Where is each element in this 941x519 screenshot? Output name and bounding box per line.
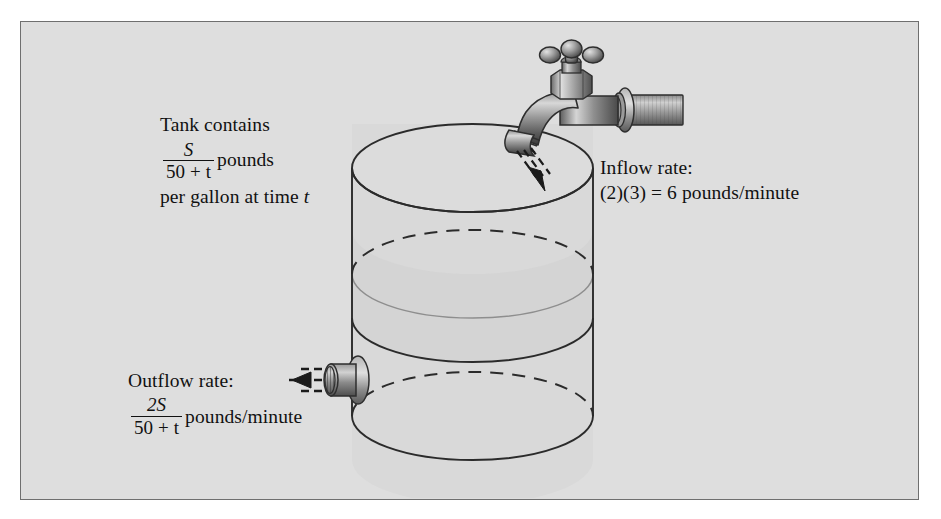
tank-contains-line1: Tank contains [160, 113, 375, 138]
tank-contains-label: Tank contains S 50 + t pounds per gallon… [160, 113, 375, 210]
tank-contains-line3: per gallon at time t [160, 185, 375, 210]
tank-contains-unit: pounds [217, 148, 274, 173]
tank-contains-line3-text: per gallon at time [160, 186, 299, 207]
outflow-rate-value: 2S 50 + t pounds/minute [128, 394, 383, 438]
outflow-units: pounds/minute [185, 404, 302, 429]
faucet-cross-handle [540, 40, 604, 63]
faucet-bonnet-nut [551, 70, 592, 99]
inflow-rate-label: Inflow rate: (2)(3) = 6 pounds/minute [600, 155, 890, 206]
cylindrical-tank [352, 124, 593, 504]
tank-contains-time-variable: t [304, 186, 310, 207]
handle-lobe-left [540, 47, 561, 63]
handle-lobe-right [583, 47, 604, 63]
outflow-fraction-numerator: 2S [131, 394, 182, 415]
tank-contains-rate: S 50 + t pounds [160, 139, 375, 183]
handle-lobe-center [561, 40, 582, 58]
inflow-rate-title: Inflow rate: [600, 155, 890, 180]
outflow-rate-label: Outflow rate: 2S 50 + t pounds/minute [128, 368, 383, 438]
outflow-fraction: 2S 50 + t [131, 394, 182, 438]
faucet-stem [562, 62, 581, 73]
outflow-rate-title: Outflow rate: [128, 368, 383, 393]
tank-concentration-fraction: S 50 + t [163, 139, 214, 183]
fraction-denominator: 50 + t [163, 160, 214, 183]
outflow-fraction-denominator: 50 + t [131, 416, 182, 439]
faucet-pipe-threads [631, 96, 682, 124]
diagram-canvas [0, 0, 941, 519]
fraction-numerator: S [163, 139, 214, 160]
inflow-rate-value: (2)(3) = 6 pounds/minute [600, 180, 890, 205]
